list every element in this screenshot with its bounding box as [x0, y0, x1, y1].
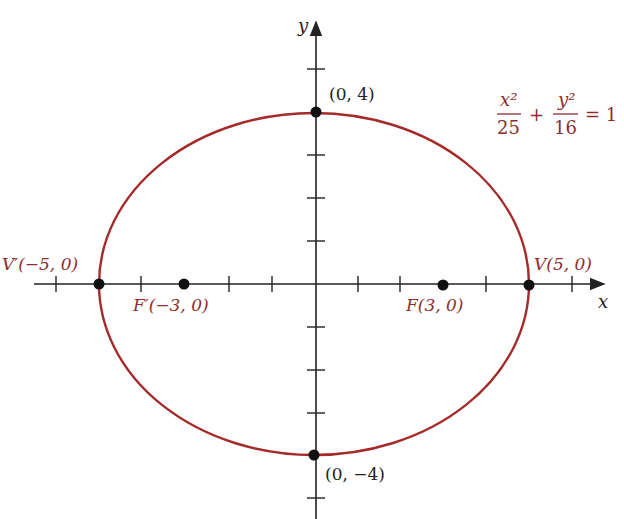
- focus-left-label: F′(−3, 0): [132, 295, 209, 315]
- vertex-right-label: V(5, 0): [534, 254, 592, 274]
- focus-right-point: [438, 280, 449, 291]
- covertex-top-label: (0, 4): [329, 84, 375, 104]
- vertex-left-point: [94, 279, 105, 290]
- svg-text:25: 25: [497, 117, 520, 138]
- ellipse-diagram: y x V(5, 0) V′(−5, 0) F(3, 0) F′(−3, 0) …: [0, 0, 624, 519]
- vertex-left-label: V′(−5, 0): [2, 254, 78, 274]
- svg-text:= 1: = 1: [585, 104, 617, 125]
- focus-right-label: F(3, 0): [405, 295, 464, 315]
- svg-text:y²: y²: [557, 89, 575, 110]
- ellipse-equation: x² 25 + y² 16 = 1: [497, 89, 617, 138]
- x-axis-label: x: [598, 291, 608, 312]
- svg-text:16: 16: [554, 117, 577, 138]
- vertex-right-point: [524, 280, 535, 291]
- svg-text:x²: x²: [500, 89, 517, 110]
- covertex-bottom-point: [309, 450, 320, 461]
- covertex-top-point: [311, 107, 322, 118]
- focus-left-point: [179, 279, 190, 290]
- covertex-bottom-label: (0, −4): [325, 464, 385, 484]
- y-axis-label: y: [297, 15, 309, 36]
- svg-text:+: +: [529, 104, 544, 125]
